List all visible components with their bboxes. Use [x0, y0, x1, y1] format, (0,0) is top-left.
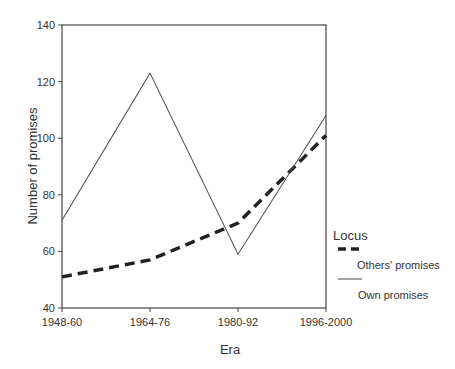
legend-title: Locus	[333, 228, 368, 243]
x-tick-label: 1948-60	[42, 316, 82, 328]
y-tick-label: 80	[43, 189, 55, 201]
plot-frame	[62, 25, 326, 308]
line-chart: 4060801001201401948-601964-761980-921996…	[0, 0, 455, 369]
others-promises-line	[62, 135, 326, 277]
y-tick-label: 140	[37, 19, 55, 31]
y-tick-label: 120	[37, 76, 55, 88]
y-tick-label: 60	[43, 245, 55, 257]
legend-own-label: Own promises	[358, 289, 429, 301]
own-promises-line	[62, 73, 326, 254]
x-tick-label: 1980-92	[218, 316, 258, 328]
y-tick-label: 40	[43, 302, 55, 314]
x-tick-label: 1964-76	[130, 316, 170, 328]
legend-others-label: Others' promises	[357, 259, 440, 271]
x-tick-label: 1996-2000	[300, 316, 353, 328]
y-axis-label: Number of promises	[25, 107, 40, 225]
x-axis-label: Era	[220, 342, 241, 357]
